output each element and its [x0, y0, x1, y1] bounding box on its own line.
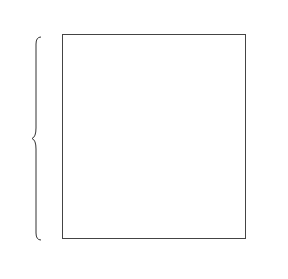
- matrix-frame: [62, 34, 246, 239]
- left-brace-icon: [32, 36, 42, 241]
